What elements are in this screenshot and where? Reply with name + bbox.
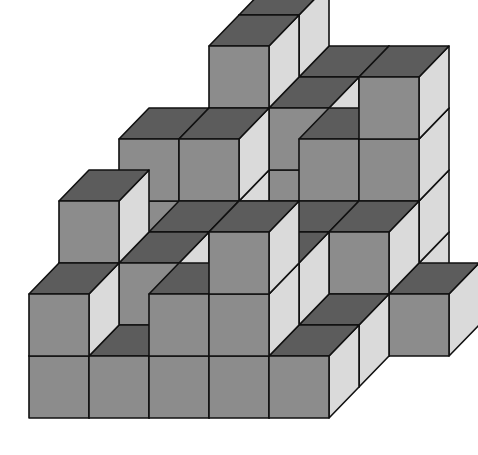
cube-front-face (149, 294, 209, 356)
cube-front-face (59, 201, 119, 263)
cube-stack-diagram (0, 0, 478, 455)
cube-front-face (149, 356, 209, 418)
cube-front-face (269, 356, 329, 418)
cube-front-face (209, 294, 269, 356)
cube-front-face (389, 294, 449, 356)
cube-front-face (29, 294, 89, 356)
cube-front-face (359, 77, 419, 139)
cube-front-face (209, 232, 269, 294)
cube-front-face (179, 139, 239, 201)
cube-front-face (209, 46, 269, 108)
cube-front-face (209, 356, 269, 418)
cube-front-face (299, 139, 359, 201)
cube-front-face (359, 139, 419, 201)
cube-front-face (329, 232, 389, 294)
cube-front-face (89, 356, 149, 418)
cube-front-face (29, 356, 89, 418)
